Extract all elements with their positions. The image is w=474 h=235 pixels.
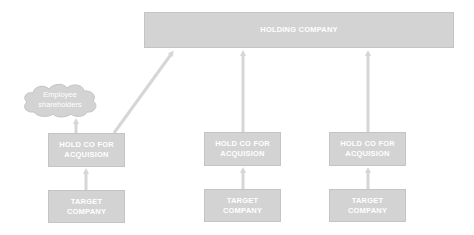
target-company-box-1: TARGET COMPANY [48, 190, 125, 223]
employee-shareholders-line1: Employee [43, 90, 76, 100]
holding-company-box: HOLDING COMPANY [144, 12, 454, 48]
holding-company-label: HOLDING COMPANY [260, 25, 337, 35]
hold-co-box-3: HOLD CO FOR ACQUISION [329, 132, 406, 166]
hold-co-box-2: HOLD CO FOR ACQUISION [204, 132, 281, 166]
hold-co-label-line1: HOLD CO FOR [340, 139, 395, 149]
arrow-hold-co-1-to-holding [114, 53, 172, 133]
target-label-line2: COMPANY [348, 206, 387, 216]
hold-co-label-line2: ACQUISION [345, 149, 389, 159]
target-label-line1: TARGET [352, 196, 383, 206]
target-company-box-2: TARGET COMPANY [204, 189, 281, 222]
target-label-line1: TARGET [227, 196, 258, 206]
hold-co-label-line2: ACQUISION [64, 150, 108, 160]
hold-co-label-line1: HOLD CO FOR [59, 140, 114, 150]
hold-co-label-line1: HOLD CO FOR [215, 139, 270, 149]
employee-shareholders-line2: shareholders [38, 100, 81, 110]
target-label-line2: COMPANY [223, 206, 262, 216]
employee-shareholders-cloud: Employee shareholders [20, 82, 100, 118]
target-label-line2: COMPANY [67, 207, 106, 217]
target-company-box-3: TARGET COMPANY [329, 189, 406, 222]
hold-co-label-line2: ACQUISION [220, 149, 264, 159]
target-label-line1: TARGET [71, 197, 102, 207]
hold-co-box-1: HOLD CO FOR ACQUISION [48, 133, 125, 167]
employee-shareholders-text: Employee shareholders [20, 82, 100, 118]
